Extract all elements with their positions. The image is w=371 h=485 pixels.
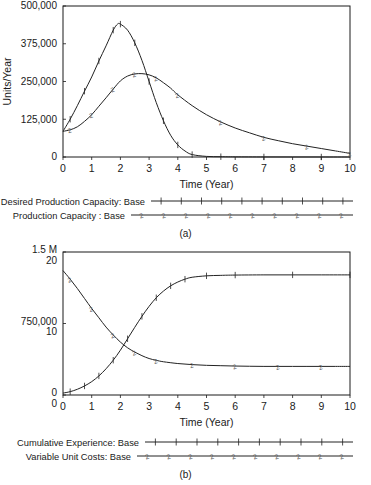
chart-a-yaxis-title: Units/Year [1,57,13,106]
chart-b-xtick-label: 8 [290,400,296,412]
chart-a-xtick-label: 9 [318,162,324,174]
chart-b-xtick-label: 6 [232,400,238,412]
legend-a-marker-1: 2 [249,212,255,220]
chart-b-ytick-label-left: 750,000 [21,316,58,327]
chart-b-plot: 00750,000101.5 M20012345678910Time (Year… [0,243,371,431]
chart-a-xtick-label: 5 [204,162,210,174]
chart-a-series-1-marker: 2 [346,150,352,158]
chart-b-xtick-label: 10 [344,400,356,412]
legend-a-marker-1: 2 [227,212,233,220]
chart-b-series-1 [63,271,350,367]
legend-b-marker-1: 2 [166,453,172,461]
legend-a-marker-1: 2 [205,212,211,220]
legend-a-marker-1: 2 [338,212,344,220]
legend-a-marker-1: 2 [272,212,278,220]
legend-a-marker-1: 2 [294,212,300,220]
legend-a-marker-1: 2 [316,212,322,220]
chart-a-plot: 0125,000250,000375,000500,00001234567891… [0,0,371,190]
legend-b-marker-1: 2 [231,453,237,461]
chart-b-series-1-marker: 2 [318,363,324,371]
legend-b-marker-1: 2 [187,453,193,461]
legend-b-marker-1: 2 [274,453,280,461]
figure-panel-b: 00750,000101.5 M20012345678910Time (Year… [0,243,371,485]
chart-a-xtick-label: 0 [60,162,66,174]
chart-a-ytick-label: 125,000 [21,114,58,125]
chart-b-ytick-label-right: 0 [51,398,57,409]
chart-a-frame [63,6,350,157]
chart-b-xtick-label: 2 [117,400,123,412]
chart-a-ytick-label: 375,000 [21,38,58,49]
legend-b-marker-1: 2 [209,453,215,461]
chart-a-legend: Desired Production Capacity: BaseProduct… [0,190,371,228]
chart-b-ytick-label-right: 20 [46,255,58,266]
chart-a-xtick-label: 1 [89,162,95,174]
chart-a-xtick-label: 4 [175,162,181,174]
chart-b-xtick-label: 0 [60,400,66,412]
legend-b-label-1: Variable Unit Costs: Base [26,452,131,462]
chart-a-ytick-label: 500,000 [21,0,58,11]
chart-a-series-0 [63,23,350,157]
legend-b-label-0: Cumulative Experience: Base [17,438,139,448]
chart-b-ytick-label-left: 1.5 M [32,244,57,255]
chart-a-xtick-label: 6 [232,162,238,174]
chart-b-series-1-marker: 2 [110,332,116,340]
chart-b-legend: Cumulative Experience: BaseVariable Unit… [0,431,371,469]
legend-b-marker-1: 2 [339,453,345,461]
chart-a-xtick-label: 8 [290,162,296,174]
chart-a-xtick-label: 10 [344,162,356,174]
chart-a-series-1-marker: 2 [174,91,180,99]
chart-a-series-1-marker: 2 [67,126,73,134]
legend-b-marker-1: 2 [144,453,150,461]
panel-label-a: (a) [0,228,371,239]
panel-label-b: (b) [0,469,371,480]
chart-b-series-1-marker: 2 [232,363,238,371]
legend-b-marker-1: 2 [317,453,323,461]
legend-b-marker-1: 2 [295,453,301,461]
chart-b-ytick-label-left: 0 [51,387,57,398]
chart-a-xtick-label: 2 [117,162,123,174]
chart-b-series-0 [63,275,350,393]
legend-a-marker-1: 2 [183,212,189,220]
chart-b-ytick-label-right: 10 [46,326,58,337]
chart-b-xtick-label: 4 [175,400,181,412]
chart-a-xaxis-title: Time (Year) [179,178,233,190]
chart-b-xtick-label: 9 [318,400,324,412]
chart-a-xtick-label: 7 [261,162,267,174]
chart-b-series-1-marker: 2 [67,276,73,284]
chart-b-series-1-marker: 2 [88,305,94,313]
legend-b-marker-1: 2 [252,453,258,461]
chart-b-xtick-label: 1 [89,400,95,412]
chart-a-series-1 [63,74,350,154]
legend-a-marker-1: 2 [138,212,144,220]
chart-b-xtick-label: 7 [261,400,267,412]
chart-a-xtick-label: 3 [146,162,152,174]
figure-panel-a: 0125,000250,000375,000500,00001234567891… [0,0,371,245]
chart-b-xtick-label: 3 [146,400,152,412]
legend-a-marker-1: 2 [161,212,167,220]
chart-a-ytick-label: 250,000 [21,76,58,87]
chart-a-series-1-marker: 2 [131,71,137,79]
chart-b-xaxis-title: Time (Year) [179,416,233,428]
chart-b-xtick-label: 5 [204,400,210,412]
legend-a-label-1: Production Capacity : Base [13,211,125,221]
legend-a-label-0: Desired Production Capacity: Base [1,197,145,207]
chart-a-ytick-label: 0 [51,151,57,162]
chart-b-series-1-marker: 2 [275,363,281,371]
